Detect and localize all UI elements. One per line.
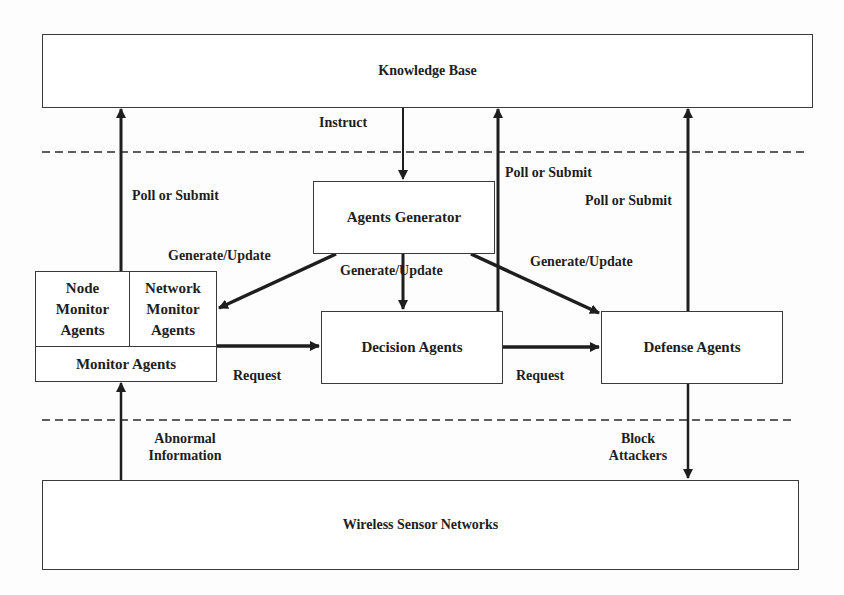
node-monitor-agents-label: Node Monitor Agents bbox=[56, 278, 109, 341]
agents-generator-box: Agents Generator bbox=[313, 181, 495, 254]
instruct-label: Instruct bbox=[319, 114, 367, 131]
agents-generator-label: Agents Generator bbox=[347, 209, 462, 226]
monitor-agents-cell: Monitor Agents bbox=[36, 346, 216, 381]
wireless-sensor-networks-box: Wireless Sensor Networks bbox=[42, 480, 799, 570]
abnormal-information-line-1: Abnormal bbox=[135, 430, 235, 447]
generate-update-decision-label: Generate/Update bbox=[340, 262, 443, 279]
monitor-agents-label: Monitor Agents bbox=[76, 354, 176, 375]
network-monitor-agents-label: Network Monitor Agents bbox=[145, 278, 201, 341]
block-attackers-line-2: Attackers bbox=[598, 447, 678, 464]
abnormal-information-line-2: Information bbox=[135, 447, 235, 464]
diagram-canvas: Knowledge Base Agents Generator Node Mon… bbox=[0, 0, 844, 595]
request-decision-defense-label: Request bbox=[516, 367, 564, 384]
poll-submit-monitor-label: Poll or Submit bbox=[132, 187, 219, 204]
node-monitor-agents-cell: Node Monitor Agents bbox=[36, 272, 130, 346]
network-monitor-agents-cell: Network Monitor Agents bbox=[130, 272, 216, 346]
monitor-agents-box: Node Monitor Agents Network Monitor Agen… bbox=[35, 271, 217, 382]
poll-submit-defense-label: Poll or Submit bbox=[585, 192, 672, 209]
defense-agents-box: Defense Agents bbox=[601, 311, 783, 384]
request-monitor-decision-label: Request bbox=[233, 367, 281, 384]
block-attackers-label: Block Attackers bbox=[598, 430, 678, 464]
block-attackers-line-1: Block bbox=[598, 430, 678, 447]
abnormal-information-label: Abnormal Information bbox=[135, 430, 235, 464]
decision-agents-label: Decision Agents bbox=[361, 339, 462, 356]
decision-agents-box: Decision Agents bbox=[321, 311, 503, 384]
generate-update-monitor-label: Generate/Update bbox=[168, 247, 271, 264]
knowledge-base-label: Knowledge Base bbox=[378, 63, 476, 79]
knowledge-base-box: Knowledge Base bbox=[42, 34, 813, 108]
wireless-sensor-networks-label: Wireless Sensor Networks bbox=[343, 517, 499, 533]
defense-agents-label: Defense Agents bbox=[643, 339, 740, 356]
poll-submit-decision-label: Poll or Submit bbox=[505, 164, 592, 181]
generate-update-defense-label: Generate/Update bbox=[530, 253, 633, 270]
